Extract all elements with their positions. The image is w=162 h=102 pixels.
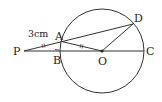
line-ao [62,42,102,51]
center-point-o [100,49,103,52]
label-a: A [54,30,64,43]
label-c: C [146,45,154,58]
measure-label-pa: 3cm [28,28,48,39]
label-o: O [98,55,107,68]
geometry-diagram: P A B O C D 3cm [0,0,162,102]
label-d: D [134,12,143,25]
label-p: P [13,45,21,58]
angle-mark [55,50,59,51]
label-b: B [53,54,61,67]
